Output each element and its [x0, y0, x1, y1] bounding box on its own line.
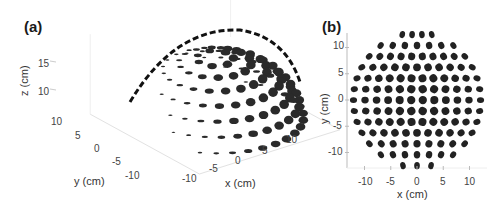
panel-a-ylabel: y (cm): [74, 175, 105, 187]
panel-a-xtick-5: 5: [262, 145, 268, 156]
panel-b-ytick-neg5: -5: [333, 120, 342, 131]
panel-a-xlabel: x (cm): [225, 177, 256, 189]
panel-b-ytick-0: 0: [338, 93, 344, 104]
panel-b-ylabel: y (cm): [318, 93, 330, 124]
panel-b-xtick-0: 0: [414, 176, 420, 187]
panel-a-ztick-15: 15: [38, 58, 49, 69]
panel-a-ytick-neg5: -5: [112, 156, 121, 167]
panel-a-xtick-neg10: -10: [182, 173, 196, 184]
panel-a-zlabel: z (cm): [18, 65, 30, 96]
panel-b-ytick-neg10: -10: [328, 146, 342, 157]
panel-a-ytick-0: 0: [94, 143, 100, 154]
panel-b-xtick-10: 10: [464, 176, 475, 187]
panel-a-ytick-neg10: -10: [125, 170, 139, 181]
panel-a-xtick-neg5: -5: [209, 163, 218, 174]
panel-a-ztick-10: 10: [38, 86, 49, 97]
panel-b-xlabel: x (cm): [397, 188, 428, 200]
panel-b-xtick-5: 5: [440, 176, 446, 187]
figure-canvas: [0, 0, 504, 203]
panel-b-xtick-neg10: -10: [358, 176, 372, 187]
panel-a-ytick-10: 10: [51, 116, 62, 127]
panel-a-xtick-10: 10: [286, 134, 297, 145]
panel-b-xtick-neg5: -5: [386, 176, 395, 187]
panel-b-ytick-10: 10: [333, 40, 344, 51]
panel-a-ytick-5: 5: [75, 130, 81, 141]
panel-a-xtick-0: 0: [235, 155, 241, 166]
panel-b-ytick-5: 5: [338, 67, 344, 78]
